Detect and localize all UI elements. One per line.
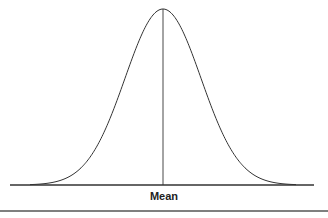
- normal-curve-diagram: [0, 0, 328, 218]
- mean-label: Mean: [0, 190, 328, 202]
